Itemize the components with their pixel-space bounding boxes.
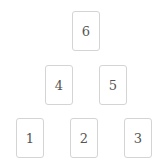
card-1[interactable]: 1 bbox=[16, 118, 44, 158]
card-5[interactable]: 5 bbox=[99, 65, 127, 105]
card-4[interactable]: 4 bbox=[45, 65, 73, 105]
card-6[interactable]: 6 bbox=[72, 11, 100, 51]
card-2[interactable]: 2 bbox=[70, 118, 98, 158]
card-3[interactable]: 3 bbox=[124, 118, 152, 158]
